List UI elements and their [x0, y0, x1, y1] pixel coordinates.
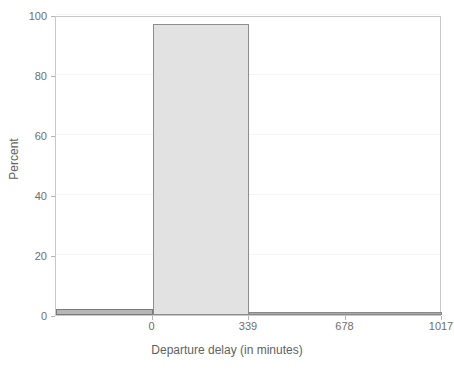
- y-tick-mark: [51, 136, 55, 137]
- x-tick-label-1017: 1017: [429, 320, 453, 332]
- x-tick-label-678: 678: [335, 320, 353, 332]
- y-tick-mark: [51, 256, 55, 257]
- histogram-bar: [249, 312, 442, 315]
- y-tick-mark: [51, 196, 55, 197]
- y-tick-mark: [51, 316, 55, 317]
- histogram-bar: [56, 309, 153, 315]
- x-tick-label-339: 339: [239, 320, 257, 332]
- x-tick-mark: [152, 316, 153, 320]
- y-tick-label-20: 20: [7, 250, 47, 262]
- x-tick-label-0: 0: [148, 320, 154, 332]
- x-tick-mark: [248, 316, 249, 320]
- x-tick-mark: [345, 316, 346, 320]
- histogram-bar: [153, 24, 250, 315]
- x-tick-mark: [441, 316, 442, 320]
- y-tick-label-0: 0: [7, 310, 47, 322]
- gridline-y-100: [56, 14, 440, 15]
- x-axis-label: Departure delay (in minutes): [0, 343, 454, 357]
- y-tick-mark: [51, 16, 55, 17]
- y-axis-label: Percent: [7, 89, 21, 229]
- y-tick-mark: [51, 76, 55, 77]
- y-tick-label-100: 100: [7, 10, 47, 22]
- plot-area: [55, 16, 441, 316]
- histogram-figure: 020406080100 03396781017 Departure delay…: [0, 0, 454, 374]
- y-tick-label-80: 80: [7, 70, 47, 82]
